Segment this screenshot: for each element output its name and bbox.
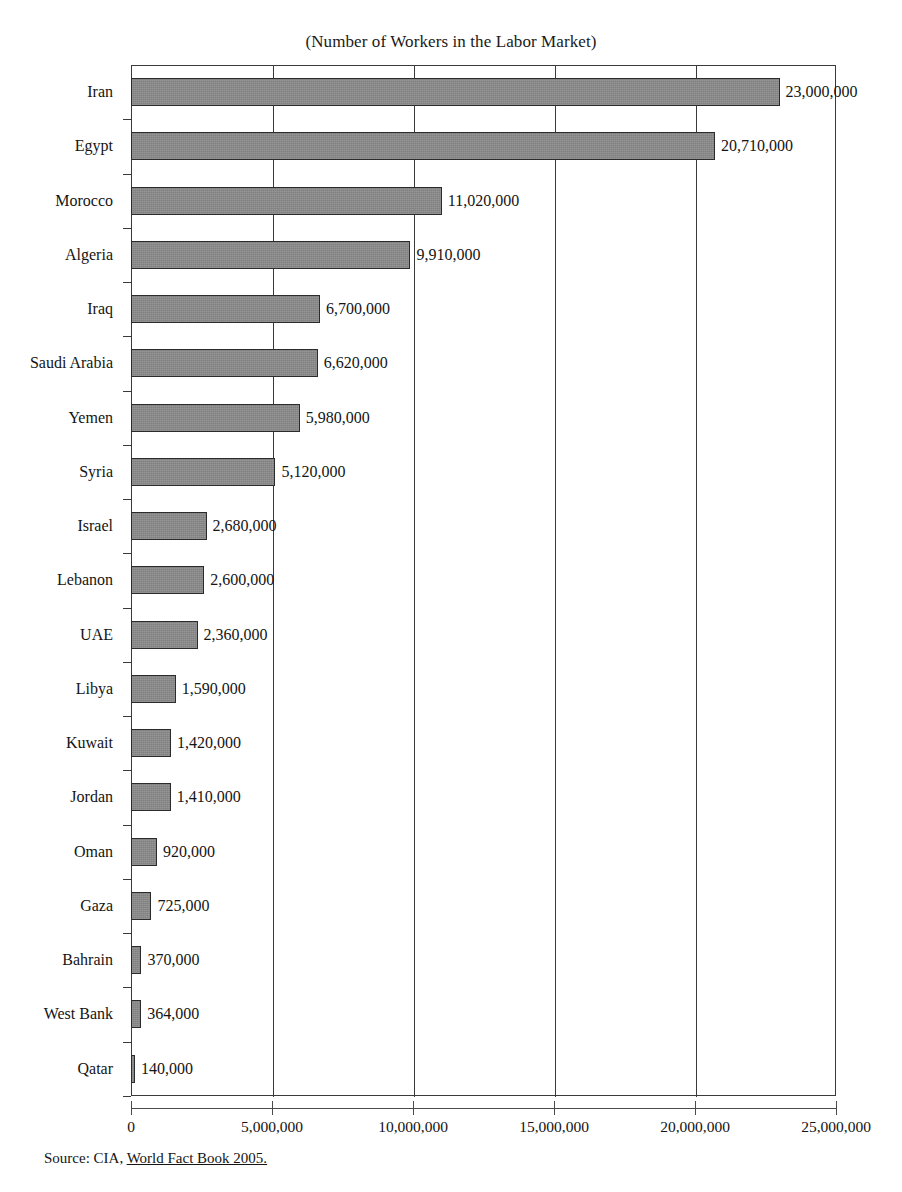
source-prefix: Source: CIA, xyxy=(44,1150,127,1166)
bar xyxy=(131,78,780,106)
bar-value-label: 9,910,000 xyxy=(410,241,480,269)
bar-row: 370,000 xyxy=(131,933,836,987)
category-label: Iraq xyxy=(0,282,113,336)
bar-chart: (Number of Workers in the Labor Market) … xyxy=(0,0,902,1192)
chart-title: (Number of Workers in the Labor Market) xyxy=(0,32,902,52)
bar-value-label: 5,980,000 xyxy=(300,404,370,432)
category-label: Yemen xyxy=(0,391,113,445)
bar-row: 1,590,000 xyxy=(131,662,836,716)
category-axis-labels: IranEgyptMoroccoAlgeriaIraqSaudi ArabiaY… xyxy=(0,65,120,1096)
bar-value-label: 1,420,000 xyxy=(171,729,241,757)
bar-row: 364,000 xyxy=(131,987,836,1041)
bar-row: 2,600,000 xyxy=(131,553,836,607)
y-axis-tick xyxy=(123,553,131,554)
bar-row: 920,000 xyxy=(131,825,836,879)
bar-value-label: 2,360,000 xyxy=(198,621,268,649)
x-axis-tick-label: 5,000,000 xyxy=(241,1118,303,1136)
category-label: Saudi Arabia xyxy=(0,336,113,390)
bar-row: 6,700,000 xyxy=(131,282,836,336)
bar-row: 11,020,000 xyxy=(131,174,836,228)
x-axis-tick xyxy=(131,1101,132,1115)
bar xyxy=(131,187,442,215)
category-label: Syria xyxy=(0,445,113,499)
bar-value-label: 1,410,000 xyxy=(171,783,241,811)
bar-row: 5,120,000 xyxy=(131,445,836,499)
category-label: Egypt xyxy=(0,119,113,173)
bar-row: 6,620,000 xyxy=(131,336,836,390)
y-axis-tick xyxy=(123,228,131,229)
category-label: Libya xyxy=(0,662,113,716)
y-axis-tick xyxy=(123,879,131,880)
y-axis-tick xyxy=(123,1096,131,1097)
bar-row: 2,360,000 xyxy=(131,608,836,662)
bar-row: 5,980,000 xyxy=(131,391,836,445)
bar xyxy=(131,675,176,703)
category-label: Israel xyxy=(0,499,113,553)
category-label: Gaza xyxy=(0,879,113,933)
category-label: Oman xyxy=(0,825,113,879)
bar xyxy=(131,566,204,594)
bar-value-label: 6,700,000 xyxy=(320,295,390,323)
y-axis-tick xyxy=(123,933,131,934)
bar-value-label: 2,600,000 xyxy=(204,566,274,594)
bar-value-label: 5,120,000 xyxy=(275,458,345,486)
bar xyxy=(131,404,300,432)
x-axis-line xyxy=(131,1108,837,1109)
x-axis-tick-label: 10,000,000 xyxy=(378,1118,448,1136)
bar-row: 20,710,000 xyxy=(131,119,836,173)
category-label: Qatar xyxy=(0,1042,113,1096)
y-axis-tick xyxy=(123,174,131,175)
bar xyxy=(131,783,171,811)
y-axis-tick xyxy=(123,825,131,826)
category-label: UAE xyxy=(0,608,113,662)
bar-value-label: 2,680,000 xyxy=(207,512,277,540)
y-axis-tick xyxy=(123,608,131,609)
category-label: Iran xyxy=(0,65,113,119)
source-note: Source: CIA, World Fact Book 2005. xyxy=(44,1150,267,1167)
category-label: Morocco xyxy=(0,174,113,228)
bar-row: 1,420,000 xyxy=(131,716,836,770)
y-axis-tick xyxy=(123,770,131,771)
y-axis-tick xyxy=(123,1042,131,1043)
bar-value-label: 725,000 xyxy=(151,892,209,920)
bar xyxy=(131,512,207,540)
y-axis-tick xyxy=(123,716,131,717)
category-label: Jordan xyxy=(0,770,113,824)
bar-value-label: 6,620,000 xyxy=(318,349,388,377)
source-emphasis: World Fact Book 2005. xyxy=(127,1150,267,1166)
bar xyxy=(131,132,715,160)
bar-row: 9,910,000 xyxy=(131,228,836,282)
bar-row: 1,410,000 xyxy=(131,770,836,824)
y-axis-tick xyxy=(123,119,131,120)
y-axis-tick xyxy=(123,499,131,500)
x-axis-tick xyxy=(272,1101,273,1115)
bar xyxy=(131,621,198,649)
y-axis-tick xyxy=(123,391,131,392)
x-axis-tick-label: 0 xyxy=(127,1118,135,1136)
bar xyxy=(131,1000,141,1028)
bar xyxy=(131,729,171,757)
category-label: Kuwait xyxy=(0,716,113,770)
bar-value-label: 20,710,000 xyxy=(715,132,793,160)
x-axis-tick xyxy=(836,1101,837,1115)
x-axis-tick xyxy=(695,1101,696,1115)
y-axis-tick xyxy=(123,336,131,337)
bar-row: 2,680,000 xyxy=(131,499,836,553)
bar-row: 140,000 xyxy=(131,1042,836,1096)
bar xyxy=(131,838,157,866)
y-axis-tick xyxy=(123,662,131,663)
bar-row: 23,000,000 xyxy=(131,65,836,119)
bar-value-label: 140,000 xyxy=(135,1055,193,1083)
y-axis-tick xyxy=(123,987,131,988)
bar-series: 23,000,00020,710,00011,020,0009,910,0006… xyxy=(131,65,836,1096)
bar-row: 725,000 xyxy=(131,879,836,933)
x-axis-tick xyxy=(554,1101,555,1115)
bar-value-label: 364,000 xyxy=(141,1000,199,1028)
bar-value-label: 11,020,000 xyxy=(442,187,519,215)
bar xyxy=(131,241,410,269)
y-axis-tick xyxy=(123,282,131,283)
category-label: Lebanon xyxy=(0,553,113,607)
bar xyxy=(131,458,275,486)
x-axis-tick-label: 20,000,000 xyxy=(660,1118,730,1136)
bar xyxy=(131,892,151,920)
